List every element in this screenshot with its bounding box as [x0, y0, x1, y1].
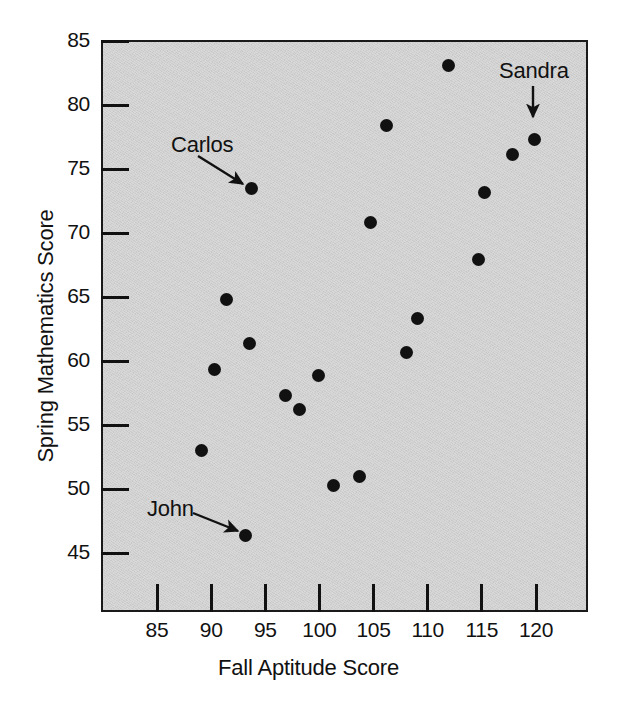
data-point-2 — [220, 293, 233, 306]
x-tick-label-120: 120 — [506, 618, 566, 642]
data-point-13 — [400, 346, 413, 359]
data-point-11 — [364, 216, 377, 229]
x-tick-label-85: 85 — [127, 618, 187, 642]
x-tick-85 — [156, 584, 159, 612]
y-tick-label-85: 85 — [28, 28, 90, 52]
data-point-carlos — [245, 182, 258, 195]
y-tick-60 — [101, 360, 129, 363]
plot-area — [101, 40, 588, 612]
x-tick-100 — [318, 584, 321, 612]
x-tick-115 — [480, 584, 483, 612]
y-tick-label-80: 80 — [28, 92, 90, 116]
x-tick-label-110: 110 — [398, 618, 458, 642]
y-tick-55 — [101, 424, 129, 427]
x-tick-120 — [535, 584, 538, 612]
y-tick-85 — [101, 40, 129, 43]
data-point-9 — [327, 479, 340, 492]
x-tick-label-95: 95 — [235, 618, 295, 642]
data-point-8 — [312, 369, 325, 382]
paper-texture-overlay — [103, 42, 586, 610]
data-point-17 — [478, 186, 491, 199]
x-axis-title: Fall Aptitude Score — [0, 655, 617, 681]
y-tick-70 — [101, 232, 129, 235]
data-point-4 — [243, 337, 256, 350]
y-axis-title: Spring Mathematics Score — [33, 136, 59, 536]
x-tick-110 — [426, 584, 429, 612]
y-tick-65 — [101, 296, 129, 299]
y-tick-45 — [101, 552, 129, 555]
x-tick-label-115: 115 — [452, 618, 512, 642]
x-tick-label-100: 100 — [289, 618, 349, 642]
x-tick-90 — [210, 584, 213, 612]
scatter-plot-figure: 455055606570758085 859095100105110115120… — [0, 0, 617, 708]
y-tick-label-45: 45 — [28, 540, 90, 564]
y-tick-50 — [101, 488, 129, 491]
data-point-15 — [442, 59, 455, 72]
annotation-label-sandra: Sandra — [499, 58, 569, 84]
x-tick-label-90: 90 — [181, 618, 241, 642]
x-tick-label-105: 105 — [344, 618, 404, 642]
data-point-12 — [380, 119, 393, 132]
annotation-label-john: John — [147, 496, 194, 522]
y-tick-80 — [101, 104, 129, 107]
data-point-10 — [353, 470, 366, 483]
x-tick-105 — [372, 584, 375, 612]
data-point-0 — [195, 444, 208, 457]
data-point-john — [239, 529, 252, 542]
x-tick-95 — [264, 584, 267, 612]
annotation-label-carlos: Carlos — [171, 132, 233, 158]
y-tick-75 — [101, 168, 129, 171]
